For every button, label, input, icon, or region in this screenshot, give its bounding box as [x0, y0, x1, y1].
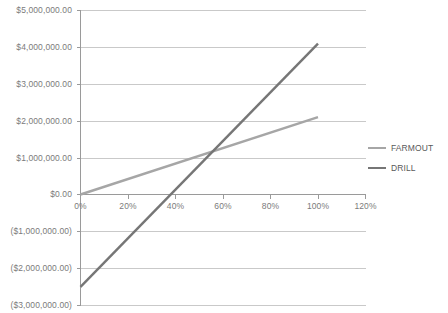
legend-item-drill[interactable]: DRILL	[368, 158, 448, 178]
y-tick-label-minus-3000000: ($3,000,000.00)	[0, 300, 72, 310]
horizontal-gridlines	[81, 11, 366, 306]
x-tick-label-100: 100%	[298, 201, 338, 211]
y-tick-label-1000000: $1,000,000.00	[0, 153, 72, 163]
x-tick-label-120: 120%	[346, 201, 386, 211]
series-line-drill	[81, 44, 319, 287]
chart-container: $5,000,000.00 $4,000,000.00 $3,000,000.0…	[0, 0, 448, 313]
y-tick-label-2000000: $2,000,000.00	[0, 116, 72, 126]
x-tick-label-80: 80%	[251, 201, 291, 211]
y-axis-ticks	[77, 11, 81, 306]
x-tick-label-0: 0%	[61, 201, 101, 211]
y-tick-label-3000000: $3,000,000.00	[0, 79, 72, 89]
legend-label-farmout: FARMOUT	[391, 143, 433, 153]
y-tick-label-5000000: $5,000,000.00	[0, 5, 72, 15]
legend-swatch-drill	[368, 167, 386, 169]
x-tick-label-60: 60%	[203, 201, 243, 211]
x-axis-ticks	[81, 195, 366, 199]
x-tick-label-20: 20%	[108, 201, 148, 211]
legend-item-farmout[interactable]: FARMOUT	[368, 138, 448, 158]
series-line-farmout	[81, 117, 319, 194]
y-tick-label-0: $0.00	[0, 189, 72, 199]
legend-swatch-farmout	[368, 147, 386, 149]
y-tick-label-4000000: $4,000,000.00	[0, 42, 72, 52]
legend-label-drill: DRILL	[391, 163, 416, 173]
y-tick-label-minus-2000000: ($2,000,000.00)	[0, 263, 72, 273]
chart-legend: FARMOUT DRILL	[368, 138, 448, 178]
x-tick-label-40: 40%	[156, 201, 196, 211]
y-tick-label-minus-1000000: ($1,000,000.00)	[0, 226, 72, 236]
